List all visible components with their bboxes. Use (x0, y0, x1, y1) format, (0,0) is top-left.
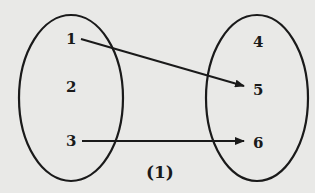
mapping-diagram: 1 2 3 4 5 6 (1) (0, 0, 315, 193)
codomain-element-4: 4 (253, 33, 263, 51)
domain-element-3: 3 (66, 132, 76, 150)
domain-element-1: 1 (66, 30, 76, 48)
diagram-caption: (1) (146, 162, 174, 182)
domain-element-2: 2 (66, 78, 76, 96)
codomain-element-5: 5 (253, 81, 263, 99)
codomain-element-6: 6 (253, 134, 263, 152)
arrow-1-to-5 (81, 39, 244, 86)
